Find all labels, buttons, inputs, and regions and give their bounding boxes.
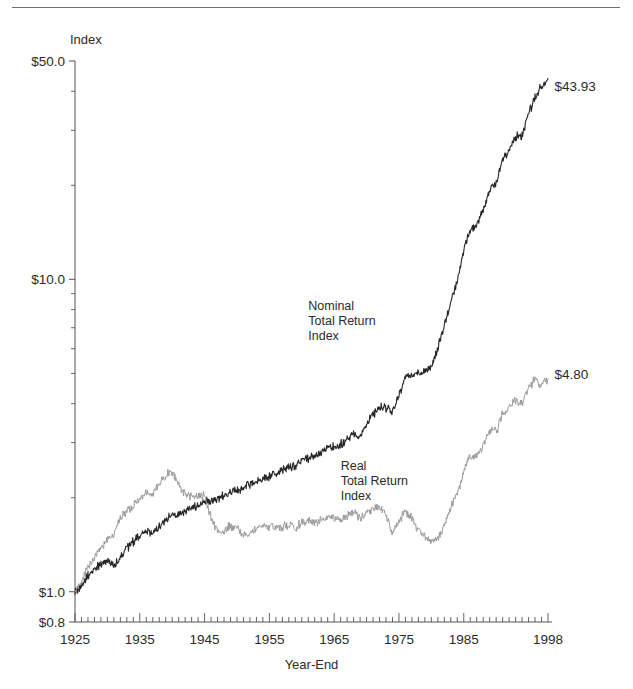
x-axis-tick-label: 1998 [533,632,563,647]
x-axis-tick-label: 1965 [319,632,349,647]
real-endpoint-value-line: $4.80 [554,367,588,382]
real-series-annotation-line: Total Return [341,474,408,488]
x-axis-tick-label: 1955 [254,632,284,647]
x-axis-tick-label: 1975 [384,632,414,647]
real-series-annotation-line: Real [341,459,367,473]
real-series-annotation: RealTotal ReturnIndex [341,459,408,503]
x-axis-title: Year-End [285,657,339,672]
series-line-real-total-return-index [75,377,548,592]
chart-figure: $50.0$10.0$1.0$0.81925193519451955196519… [0,0,633,689]
nominal-series-annotation-line: Total Return [308,314,375,328]
real-series-annotation-line: Index [341,489,372,503]
x-axis-tick-label: 1925 [60,632,90,647]
y-axis-tick-label: $1.0 [39,585,65,600]
nominal-endpoint-value-line: $43.93 [554,79,595,94]
x-axis-tick-label: 1935 [125,632,155,647]
y-axis-title: Index [70,32,102,47]
real-endpoint-value: $4.80 [554,367,588,382]
nominal-endpoint-value: $43.93 [554,79,595,94]
y-axis-tick-label: $10.0 [31,272,65,287]
y-axis-tick-label: $0.8 [39,615,65,630]
y-axis-tick-label: $50.0 [31,54,65,69]
nominal-series-annotation: NominalTotal ReturnIndex [308,299,375,343]
nominal-series-annotation-line: Nominal [308,299,354,313]
x-axis-tick-label: 1945 [190,632,220,647]
index-growth-line-chart: $50.0$10.0$1.0$0.81925193519451955196519… [0,0,633,689]
nominal-series-annotation-line: Index [308,329,339,343]
x-axis-tick-label: 1985 [449,632,479,647]
